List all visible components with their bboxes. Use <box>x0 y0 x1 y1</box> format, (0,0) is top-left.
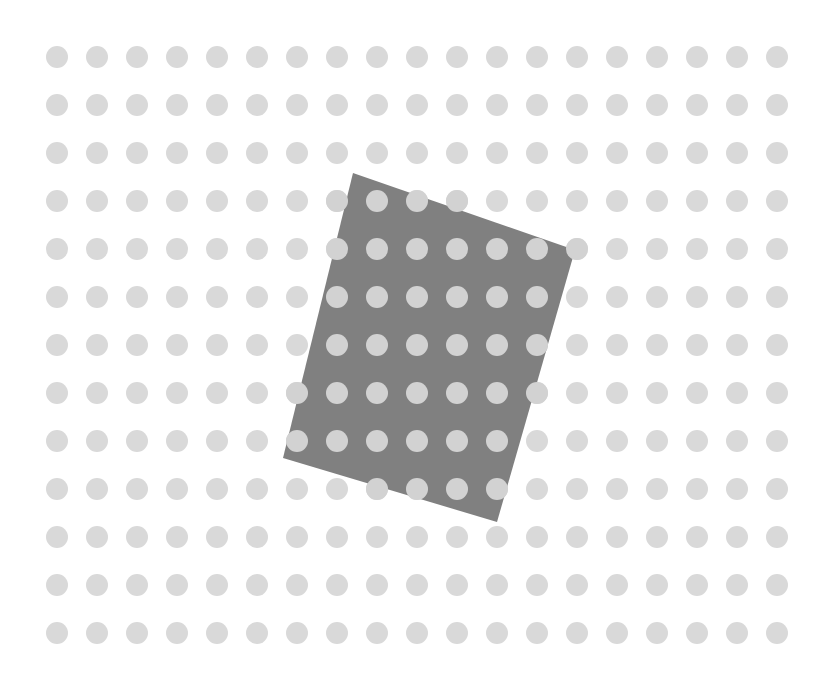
grid-dot <box>766 430 788 452</box>
grid-dot-over-square <box>406 286 428 308</box>
grid-dot <box>166 382 188 404</box>
grid-dot <box>46 430 68 452</box>
grid-dot <box>46 526 68 548</box>
grid-dot <box>86 142 108 164</box>
grid-dot-over-square <box>366 430 388 452</box>
grid-dot <box>86 238 108 260</box>
grid-dot-over-square <box>366 334 388 356</box>
grid-dot-over-square <box>406 382 428 404</box>
grid-dot <box>646 430 668 452</box>
grid-dot-over-square <box>406 238 428 260</box>
grid-dot-over-square <box>326 334 348 356</box>
grid-dot <box>246 286 268 308</box>
grid-dot <box>286 622 308 644</box>
grid-dot <box>686 574 708 596</box>
grid-dot <box>686 334 708 356</box>
dot-grid-figure <box>0 0 839 681</box>
grid-dot <box>606 334 628 356</box>
grid-dot <box>206 478 228 500</box>
grid-dot <box>526 46 548 68</box>
grid-dot-over-square <box>286 430 308 452</box>
grid-dot <box>406 46 428 68</box>
grid-dot <box>206 574 228 596</box>
grid-dot <box>126 574 148 596</box>
grid-dot <box>246 190 268 212</box>
grid-dot <box>366 574 388 596</box>
grid-dot <box>86 46 108 68</box>
grid-dot <box>766 574 788 596</box>
grid-dot <box>526 574 548 596</box>
grid-dot-over-square <box>326 430 348 452</box>
grid-dot <box>686 478 708 500</box>
grid-dot <box>726 526 748 548</box>
grid-dot <box>486 622 508 644</box>
grid-dot-over-square <box>406 190 428 212</box>
grid-dot <box>686 94 708 116</box>
grid-dot <box>406 622 428 644</box>
grid-dot-over-square <box>366 190 388 212</box>
grid-dot <box>366 142 388 164</box>
grid-dot <box>446 142 468 164</box>
grid-dot <box>646 46 668 68</box>
grid-dot <box>46 286 68 308</box>
grid-dot <box>526 478 548 500</box>
grid-dot-over-square <box>326 382 348 404</box>
grid-dot-over-square <box>406 478 428 500</box>
grid-dot <box>646 94 668 116</box>
grid-dot <box>286 526 308 548</box>
grid-dot <box>406 526 428 548</box>
grid-dot <box>326 142 348 164</box>
grid-dot <box>766 526 788 548</box>
grid-dot <box>486 190 508 212</box>
grid-dot-over-square <box>526 382 548 404</box>
grid-dot <box>646 574 668 596</box>
grid-dot <box>326 574 348 596</box>
grid-dot <box>486 142 508 164</box>
grid-dot <box>206 142 228 164</box>
grid-dot <box>726 94 748 116</box>
grid-dot <box>566 430 588 452</box>
grid-dot <box>126 286 148 308</box>
grid-dot-over-square <box>446 334 468 356</box>
grid-dot <box>286 46 308 68</box>
grid-dot <box>686 622 708 644</box>
grid-dot <box>286 286 308 308</box>
grid-dot-over-square <box>486 238 508 260</box>
grid-dot <box>166 574 188 596</box>
grid-dot <box>126 526 148 548</box>
grid-dot <box>46 94 68 116</box>
grid-dot <box>46 142 68 164</box>
grid-dot <box>166 286 188 308</box>
grid-dot <box>286 238 308 260</box>
grid-dot <box>46 190 68 212</box>
grid-dot <box>206 526 228 548</box>
grid-dot <box>206 94 228 116</box>
grid-dot <box>86 622 108 644</box>
grid-dot <box>46 382 68 404</box>
grid-dot <box>526 430 548 452</box>
grid-dot <box>246 622 268 644</box>
grid-dot <box>46 574 68 596</box>
grid-dot <box>766 334 788 356</box>
grid-dot <box>446 46 468 68</box>
grid-dot-over-square <box>446 286 468 308</box>
grid-dot <box>566 190 588 212</box>
grid-dot <box>246 238 268 260</box>
grid-dot <box>326 46 348 68</box>
grid-dot <box>126 478 148 500</box>
grid-dot <box>166 142 188 164</box>
grid-dot <box>606 190 628 212</box>
grid-dot <box>726 430 748 452</box>
grid-dot <box>166 622 188 644</box>
grid-dot-over-square <box>326 286 348 308</box>
grid-dot <box>406 142 428 164</box>
grid-dot <box>46 478 68 500</box>
grid-dot <box>526 94 548 116</box>
grid-dot <box>486 526 508 548</box>
grid-dot <box>246 334 268 356</box>
grid-dot-over-square <box>446 190 468 212</box>
grid-dot <box>326 622 348 644</box>
grid-dot <box>206 190 228 212</box>
grid-dot <box>326 94 348 116</box>
grid-dot <box>726 382 748 404</box>
